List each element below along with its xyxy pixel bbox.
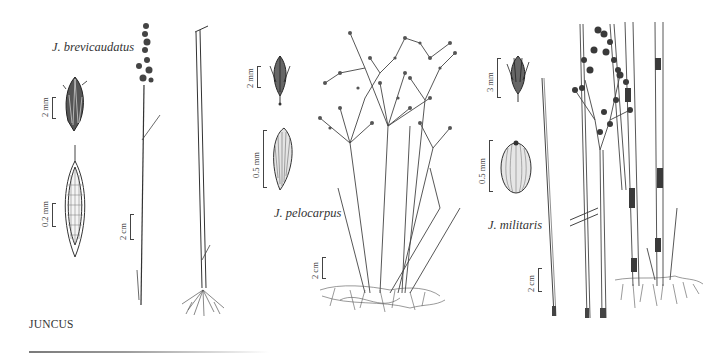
habit-illustration-pelocarpus: [310, 28, 470, 318]
scale-label: 0.5 mm: [251, 152, 261, 178]
leaf-clump-brevicaudatus: [180, 20, 230, 320]
footer-rule: [29, 351, 269, 353]
scale-label: 2 cm: [526, 275, 536, 292]
scale-label: 2 cm: [118, 223, 128, 240]
scale-label: 0.2 mm: [40, 201, 50, 227]
flower-illustration-brevicaudatus: [60, 75, 90, 135]
scale-label: 2 mm: [245, 68, 255, 88]
species-label-brevicaudatus: J. brevicaudatus: [52, 40, 134, 55]
leaf-illustration-militaris: [540, 78, 560, 318]
species-label-militaris: J. militaris: [488, 218, 542, 233]
scale-label: 2 mm: [40, 97, 50, 117]
scale-label: 2 cm: [310, 262, 320, 279]
seed-illustration-militaris: [498, 138, 534, 198]
seed-illustration-brevicaudatus: [60, 145, 90, 265]
flower-illustration-pelocarpus: [266, 52, 296, 107]
seed-illustration-pelocarpus: [268, 126, 298, 192]
scale-label: 3 mm: [485, 72, 495, 92]
leafy-shoots-militaris: [615, 18, 705, 308]
flower-illustration-militaris: [504, 52, 534, 104]
scale-label: 0.5 mm: [477, 158, 487, 184]
flowering-stem-brevicaudatus: [125, 20, 165, 310]
genus-heading: JUNCUS: [29, 318, 74, 330]
